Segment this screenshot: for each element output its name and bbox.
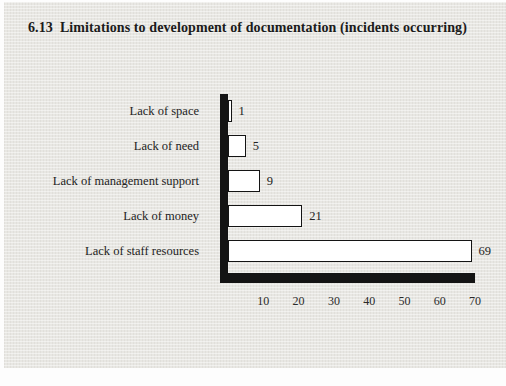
x-tick-label: 40 [354,294,384,309]
x-tick-label: 60 [425,294,455,309]
category-label: Lack of space [130,100,199,122]
x-tick-label: 50 [390,294,420,309]
bar-chart: Lack of spaceLack of needLack of managem… [4,2,506,368]
value-label: 5 [253,135,259,157]
category-label: Lack of staff resources [85,240,199,262]
x-tick-label: 20 [284,294,314,309]
bar [228,100,232,122]
category-label: Lack of money [123,205,199,227]
x-tick-label: 30 [319,294,349,309]
y-axis-line [220,94,228,283]
value-label: 1 [239,100,245,122]
bar [228,135,246,157]
x-axis-line [220,273,475,283]
category-label: Lack of need [134,135,199,157]
value-label: 9 [267,170,273,192]
value-label: 69 [479,240,492,262]
bar [228,205,302,227]
category-label: Lack of management support [53,170,199,192]
value-label: 21 [309,205,322,227]
bar [228,170,260,192]
bar [228,240,472,262]
x-tick-label: 10 [248,294,278,309]
figure-card: 6.13Limitations to development of docume… [4,2,506,368]
page: 6.13Limitations to development of docume… [0,0,506,386]
x-tick-label: 70 [460,294,490,309]
